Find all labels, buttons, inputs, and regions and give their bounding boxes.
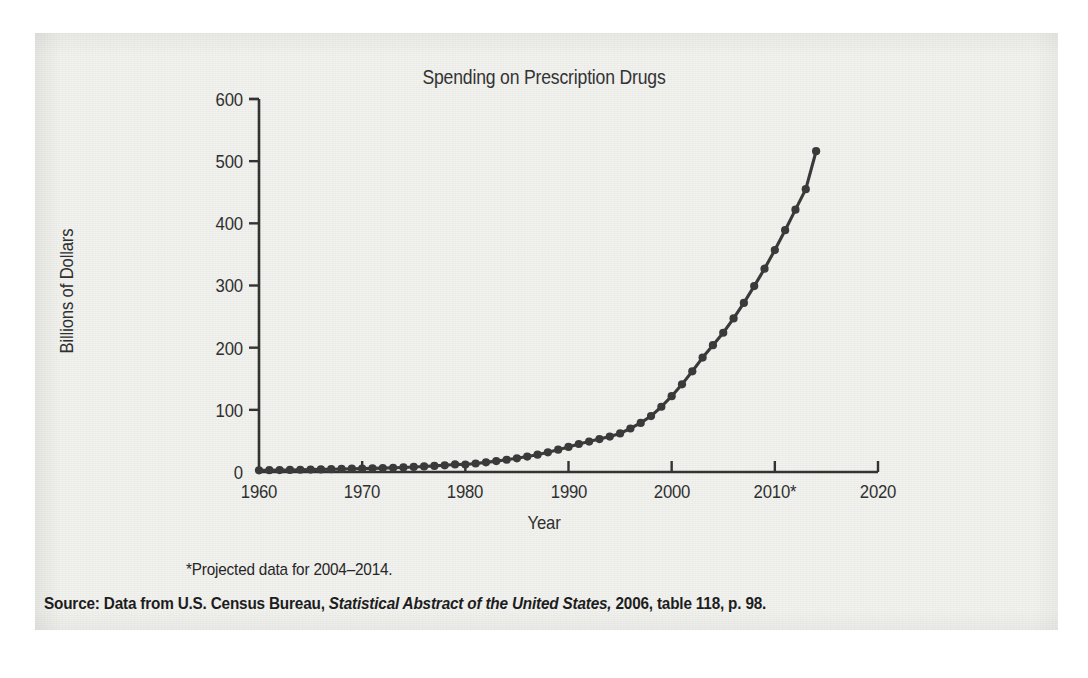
data-point [564,443,572,451]
data-point [523,452,531,460]
data-point [399,463,407,471]
footnote-source-rest: 2006, table 118, p. 98. [611,594,766,613]
data-point [585,437,593,445]
page-canvas: Spending on Prescription Drugs Billions … [0,0,1088,678]
data-point [637,419,645,427]
data-point [812,147,820,155]
data-point [544,448,552,456]
data-point [327,465,335,473]
line-chart-figure: Spending on Prescription Drugs Billions … [0,0,1088,678]
data-point [575,440,583,448]
data-point [554,446,562,454]
data-point [482,458,490,466]
data-point [410,463,418,471]
footnote-source: Source: Data from U.S. Census Bureau, St… [44,594,766,614]
data-point [461,460,469,468]
data-point [513,454,521,462]
data-point [379,464,387,472]
data-point [492,457,500,465]
data-point [255,466,263,474]
data-point [306,465,314,473]
data-point [533,451,541,459]
data-point [719,329,727,337]
data-point [595,435,603,443]
axis-spines [259,99,878,472]
data-point [688,367,696,375]
data-point [368,464,376,472]
data-point [678,380,686,388]
y-axis-ticks [249,99,259,410]
plot-area [0,0,1088,678]
data-point [781,226,789,234]
data-point [802,185,810,193]
footnote-source-title: Statistical Abstract of the United State… [329,594,612,613]
footnote-projected: *Projected data for 2004–2014. [186,560,392,580]
data-point [606,432,614,440]
data-series-markers [255,147,820,474]
data-point [657,403,665,411]
data-series-line [259,151,816,470]
data-point [441,461,449,469]
data-point [265,466,273,474]
data-point [626,424,634,432]
data-point [616,429,624,437]
data-point [740,299,748,307]
data-point [358,464,366,472]
data-point [791,206,799,214]
data-point [317,465,325,473]
data-point [430,462,438,470]
data-point [647,412,655,420]
data-point [286,466,294,474]
data-point [709,341,717,349]
data-point [668,392,676,400]
data-point [389,464,397,472]
data-point [348,465,356,473]
data-point [472,459,480,467]
data-point [296,466,304,474]
data-point [337,465,345,473]
data-point [451,460,459,468]
data-point [699,354,707,362]
data-point [276,466,284,474]
footnote-source-label: Source: Data from U.S. Census Bureau, [44,594,329,613]
data-point [729,314,737,322]
data-point [760,265,768,273]
data-point [503,456,511,464]
data-point [750,282,758,290]
data-point [420,462,428,470]
data-point [771,246,779,254]
